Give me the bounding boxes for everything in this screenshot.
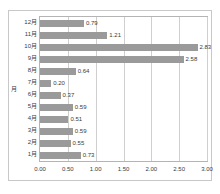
bar [40,44,198,51]
bar-value-label: 1.21 [109,30,121,41]
bar-value-label: 0.37 [63,90,75,101]
bar-value-label: 0.64 [78,66,90,77]
bar-row: 1.21 [40,29,207,41]
bar-value-label: 2.58 [186,54,198,65]
bar [40,104,73,111]
bar [40,152,81,159]
y-axis-tick-label: 5月 [9,100,37,112]
bar-row: 0.64 [40,65,207,77]
bar-row: 0.79 [40,17,207,29]
bar-row: 2.58 [40,53,207,65]
bar-value-label: 0.59 [75,126,87,137]
bar [40,116,68,123]
bar-value-label: 0.73 [83,150,95,161]
x-axis-tick-label: 3.00 [201,164,213,174]
plot-area: 0.791.212.832.580.640.200.370.590.510.59… [39,16,208,162]
bar-row: 0.59 [40,125,207,137]
bar-row: 0.20 [40,77,207,89]
y-axis-tick-label: 12月 [9,16,37,28]
bar [40,140,71,147]
x-axis-tick-labels: 0.000.501.001.502.002.503.00 [39,164,208,176]
bar-value-label: 0.55 [73,138,85,149]
bar-row: 0.73 [40,149,207,161]
x-axis-tick-label: 1.50 [118,164,130,174]
y-axis-tick-label: 10月 [9,40,37,52]
bar [40,32,107,39]
bar-row: 0.51 [40,113,207,125]
chart-frame: 月 12月11月10月9月8月7月6月5月4月3月2月1月 0.791.212.… [8,10,212,181]
y-axis-tick-label: 3月 [9,124,37,136]
bar [40,20,84,27]
y-axis-tick-label: 9月 [9,52,37,64]
bar-value-label: 0.51 [70,114,82,125]
bar-row: 0.59 [40,101,207,113]
bar-value-label: 0.59 [75,102,87,113]
bar-value-label: 0.79 [86,18,98,29]
y-axis-tick-label: 6月 [9,88,37,100]
x-axis-tick-label: 0.00 [34,164,46,174]
bar-row: 2.83 [40,41,207,53]
x-axis-tick-label: 1.00 [90,164,102,174]
gridline [207,17,208,161]
bar [40,128,73,135]
bar [40,68,76,75]
bar-row: 0.55 [40,137,207,149]
bar-row: 0.37 [40,89,207,101]
y-axis-tick-labels: 12月11月10月9月8月7月6月5月4月3月2月1月 [9,16,37,162]
bar [40,80,51,87]
y-axis-tick-label: 11月 [9,28,37,40]
y-axis-tick-label: 8月 [9,64,37,76]
y-axis-tick-label: 2月 [9,136,37,148]
y-axis-tick-label: 1月 [9,148,37,160]
bar-value-label: 2.83 [200,42,212,53]
x-axis-tick-label: 0.50 [62,164,74,174]
bar [40,56,184,63]
bar-value-label: 0.20 [53,78,65,89]
y-axis-tick-label: 7月 [9,76,37,88]
bar [40,92,61,99]
x-axis-tick-label: 2.50 [173,164,185,174]
y-axis-tick-label: 4月 [9,112,37,124]
x-axis-tick-label: 2.00 [145,164,157,174]
